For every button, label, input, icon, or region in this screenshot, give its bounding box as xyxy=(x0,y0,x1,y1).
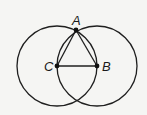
label-b: B xyxy=(102,59,111,74)
diagram-canvas: A C B xyxy=(0,0,147,115)
point-b xyxy=(95,64,100,69)
point-a xyxy=(74,28,79,33)
label-a: A xyxy=(71,13,81,28)
label-c: C xyxy=(44,59,54,74)
construction-svg: A C B xyxy=(0,0,147,115)
segment-ab xyxy=(76,30,97,66)
point-c xyxy=(55,64,60,69)
segment-ac xyxy=(57,30,76,66)
